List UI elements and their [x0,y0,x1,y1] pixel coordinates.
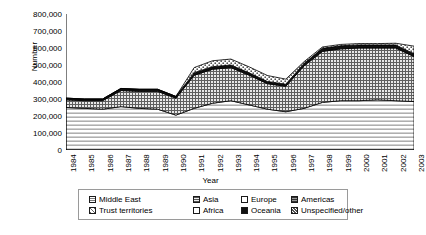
x-axis-tick-label: 2003 [417,154,426,172]
legend-item-africa[interactable]: Africa [193,206,223,215]
x-axis-tick-label: 1996 [289,154,298,172]
legend-swatch-white [193,207,200,214]
x-axis-tick-label: 1994 [252,154,261,172]
legend-item-oceania[interactable]: Oceania [241,206,281,215]
x-axis-tick-label: 1992 [216,154,225,172]
x-axis-tick-label: 1993 [234,154,243,172]
legend-swatch-cross-hatch [89,207,96,214]
x-axis-tick-label: 1984 [69,154,78,172]
legend-label: Americas [301,195,334,204]
legend-label: Asia [203,195,219,204]
y-axis-tick-label: 100,000 [33,129,62,138]
x-axis-tick-label: 1989 [161,154,170,172]
legend-item-unspecified-other[interactable]: Unspecified/other [291,206,363,215]
legend-label: Unspecified/other [301,206,363,215]
legend-label: Oceania [251,206,281,215]
x-axis-title: Year [0,176,421,185]
legend-swatch-dense-dark [291,196,298,203]
legend-item-americas[interactable]: Americas [291,195,334,204]
y-axis-tick-label: 0 [58,146,62,155]
y-axis-tick-label: 500,000 [33,61,62,70]
y-axis-tick-label: 200,000 [33,112,62,121]
legend-row: Middle EastAsiaEuropeAmericas [84,194,343,204]
x-axis-tick-label: 2000 [362,154,371,172]
legend-row: Trust territoriesAfricaOceaniaUnspecifie… [84,205,343,215]
legend-swatch-solid-black [241,207,248,214]
legend-item-europe[interactable]: Europe [241,195,277,204]
legend-swatch-fine-grid [193,196,200,203]
x-axis-tick-label: 1988 [142,154,151,172]
x-axis-tick-label: 2002 [399,154,408,172]
legend-label: Trust territories [99,206,153,215]
x-axis-tick-label: 1986 [106,154,115,172]
legend-label: Europe [251,195,277,204]
x-axis-tick-label: 1999 [344,154,353,172]
chart-legend: Middle EastAsiaEuropeAmericasTrust terri… [78,189,348,220]
legend-label: Middle East [99,195,141,204]
x-axis-tick-label: 1987 [124,154,133,172]
legend-swatch-solid-white [241,196,248,203]
x-axis-tick-label: 2001 [380,154,389,172]
y-axis-tick-label: 300,000 [33,95,62,104]
x-axis-ticks: 1984198519861987198819891990199119921993… [0,0,421,40]
x-axis-tick-label: 1991 [197,154,206,172]
x-axis-tick-label: 1995 [270,154,279,172]
legend-label: Africa [203,206,223,215]
y-axis-tick-label: 600,000 [33,44,62,53]
legend-swatch-horizontal-lines [89,196,96,203]
x-axis-tick-label: 1998 [325,154,334,172]
legend-swatch-dotted [291,207,298,214]
legend-item-asia[interactable]: Asia [193,195,219,204]
x-axis-tick-label: 1990 [179,154,188,172]
x-axis-tick-label: 1985 [87,154,96,172]
x-axis-tick-label: 1997 [307,154,316,172]
y-axis-tick-label: 400,000 [33,78,62,87]
legend-item-middle-east[interactable]: Middle East [89,195,141,204]
legend-item-trust-territories[interactable]: Trust territories [89,206,153,215]
